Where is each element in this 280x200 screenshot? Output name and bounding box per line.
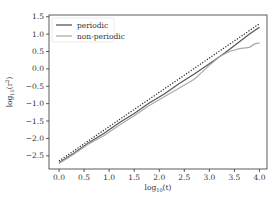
legend-label: non-periodic: [77, 32, 125, 41]
y-tick-label: −2.5: [26, 151, 44, 160]
y-tick-label: 0.0: [32, 64, 44, 73]
y-tick-label: 1.0: [32, 30, 44, 39]
x-tick-label: 2.5: [178, 173, 190, 182]
x-axis-label: log10(t): [145, 183, 172, 193]
x-tick-label: 1.0: [103, 173, 115, 182]
y-tick-label: −2.0: [26, 134, 44, 143]
x-tick-label: 3.0: [203, 173, 215, 182]
x-tick-label: 0.5: [78, 173, 90, 182]
plot-lines: [59, 24, 260, 164]
y-tick-label: 0.5: [32, 47, 44, 56]
y-tick-label: −1.5: [26, 117, 44, 126]
x-tick-label: 1.5: [128, 173, 140, 182]
x-tick-label: 4.0: [254, 173, 266, 182]
series-reference-dotted: [59, 24, 260, 161]
y-tick-label: −0.5: [26, 82, 44, 91]
series-periodic: [59, 27, 260, 163]
x-tick-label: 0.0: [53, 173, 65, 182]
x-axis-ticks: 0.00.51.01.52.02.53.03.54.0: [53, 169, 266, 182]
y-tick-label: 1.5: [32, 12, 44, 21]
y-tick-label: −1.0: [26, 99, 44, 108]
legend: periodicnon-periodic: [52, 18, 125, 42]
chart: 0.00.51.01.52.02.53.03.54.0 −2.5−2.0−1.5…: [0, 0, 280, 200]
x-tick-label: 3.5: [228, 173, 240, 182]
x-tick-label: 2.0: [153, 173, 165, 182]
legend-label: periodic: [77, 21, 108, 30]
y-axis-ticks: −2.5−2.0−1.5−1.0−0.50.00.51.01.5: [26, 12, 49, 160]
y-axis-label: log10(r2): [4, 77, 15, 108]
series-non-periodic: [59, 43, 260, 164]
